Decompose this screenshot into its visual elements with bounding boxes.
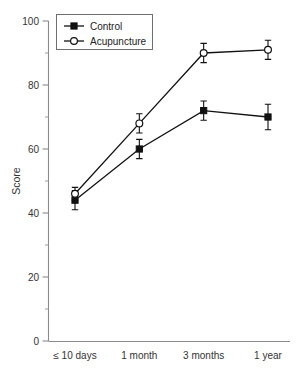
line-chart: 020406080100 ≤ 10 days1 month3 months1 y… bbox=[0, 0, 301, 373]
x-tick-label: 3 months bbox=[183, 350, 224, 361]
x-axis-tick-labels: ≤ 10 days1 month3 months1 year bbox=[53, 350, 282, 361]
chart-figure: 020406080100 ≤ 10 days1 month3 months1 y… bbox=[0, 0, 301, 373]
y-tick-label: 100 bbox=[22, 16, 39, 27]
legend-label: Control bbox=[90, 21, 122, 32]
legend-label: Acupuncture bbox=[90, 36, 147, 47]
series-acupuncture bbox=[72, 40, 272, 200]
data-point bbox=[201, 108, 207, 114]
x-tick-label: ≤ 10 days bbox=[53, 350, 96, 361]
y-axis-tick-labels: 020406080100 bbox=[22, 16, 39, 347]
y-tick-label: 0 bbox=[33, 336, 39, 347]
y-tick-label: 40 bbox=[28, 208, 40, 219]
x-tick-label: 1 year bbox=[254, 350, 282, 361]
series-control bbox=[72, 101, 271, 210]
data-point bbox=[136, 120, 143, 127]
legend-square-icon bbox=[71, 23, 77, 29]
y-tick-label: 60 bbox=[28, 144, 40, 155]
axes bbox=[49, 21, 291, 342]
data-point bbox=[265, 114, 271, 120]
legend-circle-icon bbox=[71, 38, 78, 45]
data-point bbox=[200, 50, 207, 57]
y-tick-label: 20 bbox=[28, 272, 40, 283]
data-point bbox=[265, 46, 272, 53]
y-tick-label: 80 bbox=[28, 80, 40, 91]
data-point bbox=[72, 190, 79, 197]
data-point bbox=[136, 146, 142, 152]
series-line bbox=[75, 50, 268, 194]
y-axis-title: Score bbox=[10, 167, 22, 195]
x-tick-label: 1 month bbox=[121, 350, 157, 361]
chart-legend: ControlAcupuncture bbox=[57, 15, 153, 50]
data-series bbox=[72, 40, 272, 210]
series-line bbox=[75, 111, 268, 201]
